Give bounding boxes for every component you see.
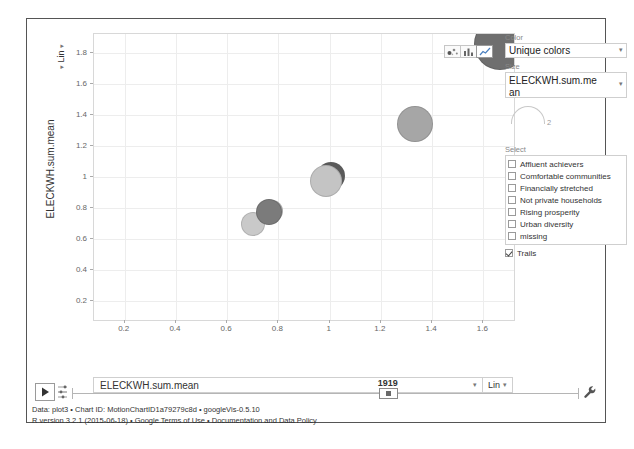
y-tick-mark xyxy=(90,176,93,177)
gridline-horizontal xyxy=(94,115,514,116)
chevron-down-icon: ▾ xyxy=(619,46,623,54)
control-panel: Color Unique colors ▾ Size ELECKWH.sum.m… xyxy=(505,33,627,363)
y-tick-label: 1.4 xyxy=(71,109,87,118)
y-tick-label: 0.6 xyxy=(71,234,87,243)
timeline-handle[interactable] xyxy=(379,388,398,399)
option-checkbox[interactable] xyxy=(508,160,516,168)
select-option-row[interactable]: Financially stretched xyxy=(508,182,624,194)
y-axis-scale-select[interactable]: ▾ Lin ▾ xyxy=(55,41,67,72)
plot-canvas[interactable] xyxy=(93,33,515,321)
y-tick-label: 0.4 xyxy=(71,265,87,274)
gridline-horizontal xyxy=(94,301,514,302)
footer-line-2: R version 3.2.1 (2015-06-18) • Google Te… xyxy=(32,416,317,427)
color-select-value: Unique colors xyxy=(509,45,570,57)
option-label: Urban diversity xyxy=(520,220,573,229)
x-tick-label: 0.4 xyxy=(169,324,180,333)
color-select[interactable]: Unique colors ▾ xyxy=(505,43,627,58)
y-tick-label: 0.8 xyxy=(71,203,87,212)
chevron-down-icon-2: ▾ xyxy=(58,44,65,48)
gridline-horizontal xyxy=(94,208,514,209)
size-select-value: ELECKWH.sum.mean xyxy=(509,75,601,98)
select-option-row[interactable]: Affluent achievers xyxy=(508,158,624,170)
x-tick-mark xyxy=(482,320,483,323)
trails-label: Trails xyxy=(517,249,536,258)
x-tick-label: 1.4 xyxy=(425,324,436,333)
x-tick-mark xyxy=(277,320,278,323)
footer-line-1: Data: plot3 • Chart ID: MotionChartID1a7… xyxy=(32,405,317,416)
chart-type-toggle[interactable] xyxy=(445,45,493,58)
gridline-horizontal xyxy=(94,146,514,147)
timeline-end-cap xyxy=(578,388,579,399)
y-tick-mark xyxy=(90,207,93,208)
x-tick-mark xyxy=(226,320,227,323)
wrench-icon[interactable] xyxy=(583,385,597,399)
y-tick-label: 1.8 xyxy=(71,47,87,56)
option-checkbox[interactable] xyxy=(508,220,516,228)
size-legend-arc-icon xyxy=(511,106,545,124)
timeline-slider[interactable]: 1919 xyxy=(72,380,579,404)
data-bubble[interactable] xyxy=(397,106,433,142)
x-tick-mark xyxy=(380,320,381,323)
size-legend-value: 2 xyxy=(547,118,551,127)
y-tick-label: 1.6 xyxy=(71,78,87,87)
x-tick-mark xyxy=(431,320,432,323)
select-option-row[interactable]: Comfortable communities xyxy=(508,170,624,182)
select-options-list[interactable]: Affluent achieversComfortable communitie… xyxy=(505,155,627,245)
playback-speed-icon[interactable] xyxy=(56,383,70,401)
y-tick-label: 1 xyxy=(71,172,87,181)
size-label: Size xyxy=(505,62,627,71)
trails-checkbox[interactable] xyxy=(505,249,513,257)
chevron-down-icon: ▾ xyxy=(619,80,623,88)
size-legend: 2 xyxy=(505,104,627,144)
select-option-row[interactable]: Not private households xyxy=(508,194,624,206)
option-label: Financially stretched xyxy=(520,184,593,193)
y-tick-label: 0.2 xyxy=(71,296,87,305)
data-bubble[interactable] xyxy=(256,199,282,225)
select-option-row[interactable]: Urban diversity xyxy=(508,218,624,230)
data-bubble[interactable] xyxy=(310,165,342,197)
option-label: Affluent achievers xyxy=(520,160,583,169)
chevron-down-icon: ▾ xyxy=(58,65,65,69)
x-tick-mark xyxy=(329,320,330,323)
y-tick-label: 1.2 xyxy=(71,140,87,149)
option-label: Not private households xyxy=(520,196,602,205)
timeline-handle-grip xyxy=(386,391,391,396)
bar-chart-icon[interactable] xyxy=(460,45,477,58)
option-checkbox[interactable] xyxy=(508,232,516,240)
gridline-horizontal xyxy=(94,239,514,240)
trails-toggle[interactable]: Trails xyxy=(505,247,627,259)
gridline-horizontal xyxy=(94,84,514,85)
x-tick-label: 0.6 xyxy=(221,324,232,333)
footer-attribution: Data: plot3 • Chart ID: MotionChartID1a7… xyxy=(32,405,317,427)
timeline-start-cap xyxy=(72,388,73,399)
gridline-horizontal xyxy=(94,177,514,178)
y-tick-mark xyxy=(90,145,93,146)
size-select[interactable]: ELECKWH.sum.mean ▾ xyxy=(505,72,627,98)
y-tick-mark xyxy=(90,52,93,53)
option-checkbox[interactable] xyxy=(508,184,516,192)
motion-chart-frame: 0.20.40.60.811.21.41.6 0.20.40.60.811.21… xyxy=(26,18,606,423)
select-option-row[interactable]: Rising prosperity xyxy=(508,206,624,218)
x-tick-label: 0.8 xyxy=(272,324,283,333)
y-axis-scale-value: Lin xyxy=(56,51,66,63)
bubble-chart-icon[interactable] xyxy=(444,45,461,58)
y-tick-mark xyxy=(90,269,93,270)
x-tick-label: 1.2 xyxy=(374,324,385,333)
gridline-horizontal xyxy=(94,270,514,271)
option-checkbox[interactable] xyxy=(508,196,516,204)
option-label: missing xyxy=(520,232,547,241)
x-tick-label: 1 xyxy=(326,324,330,333)
line-chart-icon[interactable] xyxy=(476,45,493,58)
play-button[interactable] xyxy=(35,383,55,401)
y-tick-mark xyxy=(90,114,93,115)
timeline-value-label: 1919 xyxy=(378,378,398,388)
x-tick-mark xyxy=(124,320,125,323)
option-checkbox[interactable] xyxy=(508,208,516,216)
color-label: Color xyxy=(505,33,627,42)
option-checkbox[interactable] xyxy=(508,172,516,180)
select-option-row[interactable]: missing xyxy=(508,230,624,242)
y-tick-mark xyxy=(90,238,93,239)
timeline-track[interactable] xyxy=(72,393,579,394)
plot-area: 0.20.40.60.811.21.41.6 0.20.40.60.811.21… xyxy=(71,33,515,336)
x-tick-mark xyxy=(175,320,176,323)
